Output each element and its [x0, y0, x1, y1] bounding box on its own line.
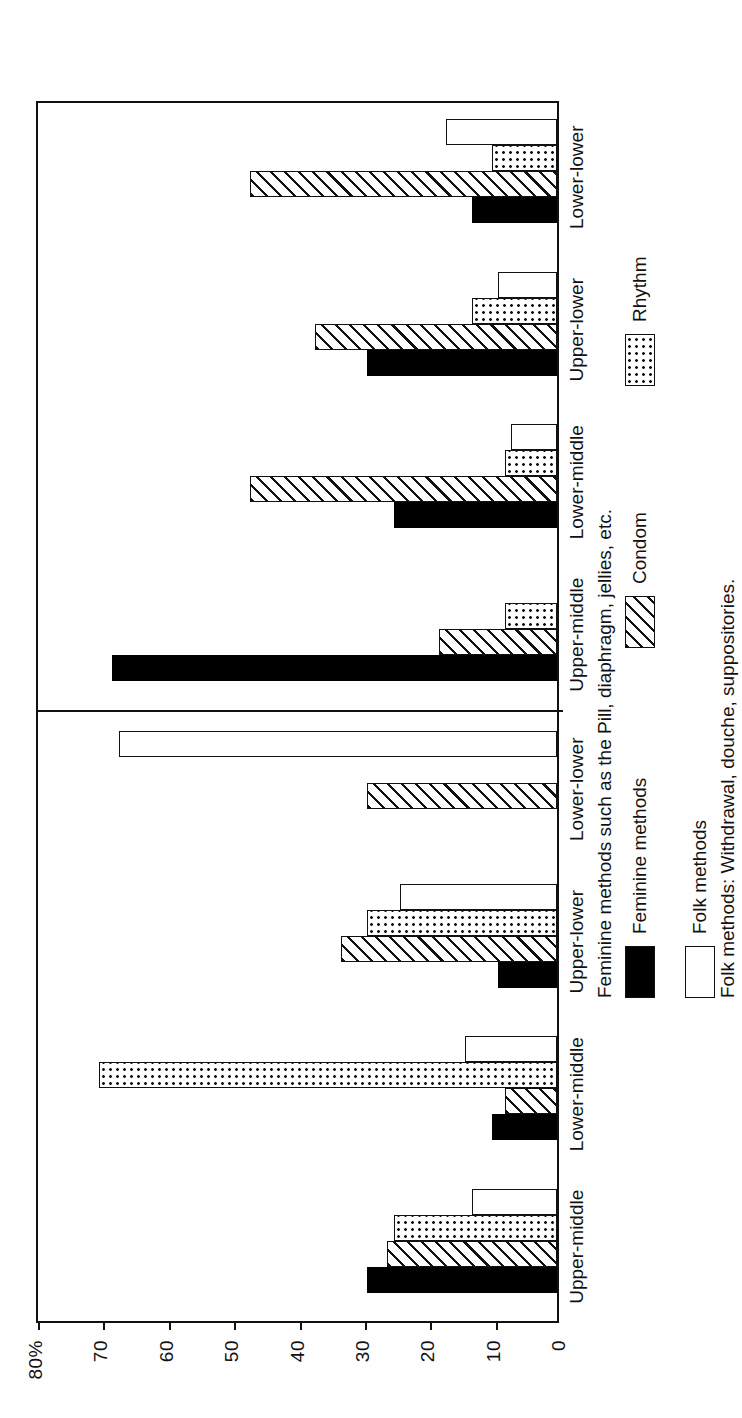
figure: 80% 70 60 50 40 30 20 10 0 Catholics (Wh…	[0, 0, 742, 1418]
legend-swatch-rhythm-icon	[625, 334, 655, 386]
legend-item-folk: Folk methods	[685, 820, 715, 998]
rotated-figure-wrapper: 80% 70 60 50 40 30 20 10 0 Catholics (Wh…	[0, 0, 742, 1418]
legend-item-rhythm: Rhythm	[625, 257, 655, 386]
legend-swatch-condom-icon	[625, 596, 655, 648]
legend-swatch-folk-icon	[685, 946, 715, 998]
legend-item-condom: Condom	[625, 512, 655, 648]
legend-note-feminine: Feminine methods such as the Pill, diaph…	[594, 509, 616, 998]
legend-label-feminine: Feminine methods	[629, 778, 651, 934]
legend-label-condom: Condom	[629, 512, 651, 584]
legend-note-folk: Folk methods: Withdrawal, douche, suppos…	[717, 579, 739, 998]
legend: Feminine methods Condom Rhythm Folk meth…	[0, 0, 742, 1418]
legend-item-feminine: Feminine methods	[625, 778, 655, 998]
legend-label-rhythm: Rhythm	[629, 257, 651, 322]
legend-swatch-feminine-icon	[625, 946, 655, 998]
chart-page: 80% 70 60 50 40 30 20 10 0 Catholics (Wh…	[0, 0, 742, 1418]
legend-label-folk: Folk methods	[689, 820, 711, 934]
